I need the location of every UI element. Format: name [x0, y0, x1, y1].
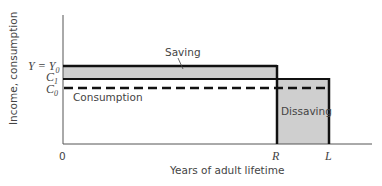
saving-label: Saving — [165, 46, 201, 58]
y-axis-title: Income, consumption — [7, 12, 19, 125]
x-axis-title: Years of adult lifetime — [169, 164, 284, 176]
label-y-equals-y0: Y = Y0 — [28, 59, 59, 75]
lifecycle-consumption-diagram: Y = Y0 C1 C0 Saving Consumption Dissavin… — [0, 0, 382, 186]
dissaving-label: Dissaving — [281, 105, 332, 117]
saving-region — [63, 66, 277, 79]
origin-label: 0 — [59, 150, 66, 162]
consumption-label: Consumption — [73, 91, 143, 103]
x-tick-r: R — [271, 149, 280, 163]
x-tick-l: L — [324, 149, 332, 163]
